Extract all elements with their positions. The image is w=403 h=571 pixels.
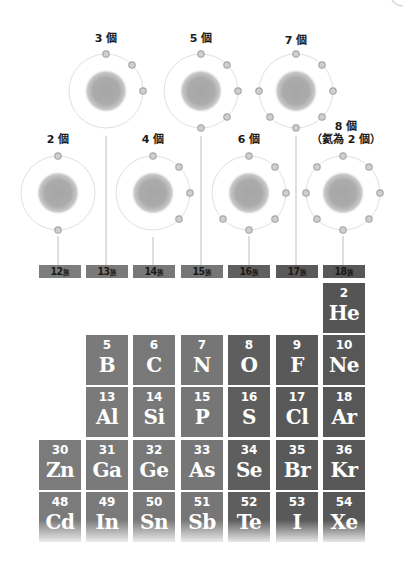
element-tile-c: 6 C [133, 335, 175, 385]
element-tile-te: 52 Te [228, 492, 270, 542]
atomic-number: 8 [228, 339, 270, 352]
atomic-number: 49 [86, 496, 128, 509]
group-label-13: 13族 [86, 265, 128, 278]
group-number: 18 [334, 265, 346, 277]
element-symbol: Si [133, 405, 175, 429]
count-label-group-15: 5 個 [190, 33, 212, 45]
element-symbol: Ge [133, 458, 175, 482]
element-symbol: N [181, 353, 223, 377]
element-tile-p: 15 P [181, 387, 223, 437]
atomic-number: 51 [181, 496, 223, 509]
atom-2-electrons [21, 153, 95, 233]
atomic-number: 34 [228, 444, 270, 457]
group-number: 17 [287, 265, 299, 277]
group-number: 13 [97, 265, 109, 277]
atomic-number: 35 [276, 444, 318, 457]
element-symbol: Zn [39, 458, 81, 482]
element-symbol: As [181, 458, 223, 482]
count-label-group-17: 7 個 [285, 35, 307, 47]
group-number: 16 [239, 265, 251, 277]
atomic-number: 30 [39, 444, 81, 457]
count-label-group-16: 6 個 [238, 134, 260, 146]
element-symbol: Ga [86, 458, 128, 482]
group-suffix: 族 [157, 269, 164, 277]
connector-lines [58, 136, 343, 265]
group-label-14: 14族 [133, 265, 175, 278]
element-symbol: Te [228, 510, 270, 534]
element-symbol: Sb [181, 510, 223, 534]
group-suffix: 族 [110, 269, 117, 277]
atom-7-electrons [256, 51, 336, 131]
partial-orbit-decoration [392, 0, 403, 6]
element-tile-n: 7 N [181, 335, 223, 385]
group-suffix: 族 [252, 269, 259, 277]
atomic-number: 31 [86, 444, 128, 457]
count-label-group-12: 2 個 [47, 134, 69, 146]
element-symbol: Se [228, 458, 270, 482]
group-number: 12 [50, 265, 62, 277]
group-suffix: 族 [205, 269, 212, 277]
element-symbol: In [86, 510, 128, 534]
atomic-number: 32 [133, 444, 175, 457]
element-symbol: S [228, 405, 270, 429]
element-symbol: I [276, 510, 318, 534]
atomic-number: 10 [323, 339, 365, 352]
atomic-number: 15 [181, 391, 223, 404]
element-symbol: P [181, 405, 223, 429]
element-symbol: Al [86, 405, 128, 429]
element-symbol: Cl [276, 405, 318, 429]
count-label-group-13: 3 個 [95, 33, 117, 45]
group-label-16: 16族 [228, 265, 270, 278]
element-symbol: Ne [323, 353, 365, 377]
atomic-number: 6 [133, 339, 175, 352]
element-tile-cd: 48 Cd [39, 492, 81, 542]
group-number: 15 [192, 265, 204, 277]
atomic-number: 54 [323, 496, 365, 509]
group-number: 14 [144, 265, 156, 277]
atomic-number: 2 [323, 287, 365, 300]
element-symbol: C [133, 353, 175, 377]
element-tile-se: 34 Se [228, 440, 270, 490]
element-tile-al: 13 Al [86, 387, 128, 437]
element-symbol: Sn [133, 510, 175, 534]
group-label-12: 12族 [39, 265, 81, 278]
element-symbol: O [228, 353, 270, 377]
element-tile-xe: 54 Xe [323, 492, 365, 542]
group-suffix: 族 [300, 269, 307, 277]
atomic-number: 18 [323, 391, 365, 404]
element-tile-kr: 36 Kr [323, 440, 365, 490]
element-tile-o: 8 O [228, 335, 270, 385]
count-label-group-18-note: （氦為 2 個） [311, 134, 381, 146]
atomic-number: 50 [133, 496, 175, 509]
atomic-number: 36 [323, 444, 365, 457]
valence-electron-diagram: 3 個 5 個 7 個 2 個 4 個 6 個 8 個 （氦為 2 個） 12族… [0, 0, 403, 571]
element-tile-cl: 17 Cl [276, 387, 318, 437]
element-tile-b: 5 B [86, 335, 128, 385]
element-symbol: Ar [323, 405, 365, 429]
atomic-number: 33 [181, 444, 223, 457]
atomic-number: 14 [133, 391, 175, 404]
element-tile-in: 49 In [86, 492, 128, 542]
element-tile-ge: 32 Ge [133, 440, 175, 490]
atomic-number: 17 [276, 391, 318, 404]
count-label-group-14: 4 個 [142, 134, 164, 146]
atom-3-electrons [69, 51, 146, 128]
element-tile-sb: 51 Sb [181, 492, 223, 542]
element-symbol: Xe [323, 510, 365, 534]
group-label-15: 15族 [181, 265, 223, 278]
element-tile-s: 16 S [228, 387, 270, 437]
element-symbol: Br [276, 458, 318, 482]
atomic-number: 9 [276, 339, 318, 352]
atom-6-electrons [212, 153, 289, 233]
group-suffix: 族 [63, 269, 70, 277]
element-symbol: He [323, 301, 365, 325]
element-tile-f: 9 F [276, 335, 318, 385]
element-symbol: Cd [39, 510, 81, 534]
element-tile-ne: 10 Ne [323, 335, 365, 385]
atomic-number: 16 [228, 391, 270, 404]
element-tile-ga: 31 Ga [86, 440, 128, 490]
element-tile-i: 53 I [276, 492, 318, 542]
element-tile-as: 33 As [181, 440, 223, 490]
element-symbol: F [276, 353, 318, 377]
element-tile-ar: 18 Ar [323, 387, 365, 437]
